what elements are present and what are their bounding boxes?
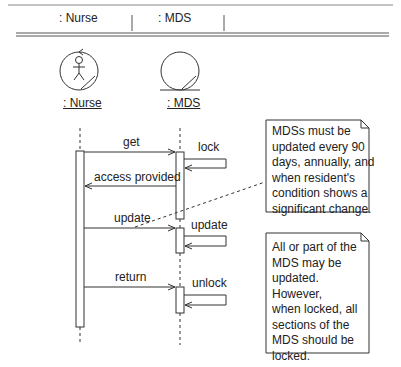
message-label-lock: lock: [198, 140, 219, 154]
note-line: updated every 90: [272, 140, 375, 156]
header-column-mds: : MDS: [158, 11, 191, 25]
message-label-unlock: unlock: [192, 276, 227, 290]
message-label-access-provided: access provided: [94, 170, 181, 184]
note-1-text: MDSs must be updated every 90 days, annu…: [272, 124, 375, 217]
object-name-nurse: : Nurse: [63, 96, 102, 110]
note-line: significant change.: [272, 202, 375, 218]
note-2-text: All or part of the MDS may be updated. H…: [272, 240, 357, 364]
note-line: MDS may be: [272, 256, 357, 272]
note-line: days, annually, and: [272, 155, 375, 171]
note-line: when resident's: [272, 171, 375, 187]
note-line: when locked, all: [272, 302, 357, 318]
note-line: MDSs must be: [272, 124, 375, 140]
mds-activation-bar: [176, 228, 184, 253]
note-line: updated.: [272, 271, 357, 287]
header-column-nurse: : Nurse: [59, 11, 98, 25]
note-line: However,: [272, 287, 357, 303]
message-label-get: get: [123, 135, 140, 149]
note-line: sections of the: [272, 318, 357, 334]
nurse-activation-bar: [76, 151, 84, 327]
update-self-message-arrow: [184, 236, 226, 246]
mds-entity-icon: [160, 52, 200, 90]
note-line: locked.: [272, 349, 357, 365]
unlock-self-message-arrow: [184, 295, 226, 305]
message-label-return: return: [115, 270, 146, 284]
note-line: All or part of the: [272, 240, 357, 256]
mds-activation-bar: [176, 152, 184, 219]
message-label-update-self: update: [191, 218, 228, 232]
object-name-mds: : MDS: [167, 96, 200, 110]
note-line: MDS should be: [272, 333, 357, 349]
mds-activation-bar: [176, 287, 184, 313]
note-line: condition shows a: [272, 186, 375, 202]
message-label-update: update: [114, 211, 151, 225]
lock-self-message-arrow: [184, 159, 226, 168]
nurse-actor-icon: [60, 49, 98, 90]
